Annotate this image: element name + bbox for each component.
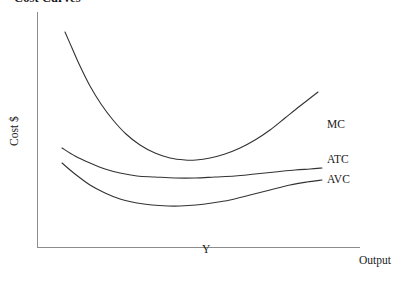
curve-avc [62,163,322,206]
curve-label-mc: MC [327,118,345,131]
x-axis-tick-label-y: Y [202,243,210,256]
y-axis-label-text: Cost $ [8,116,21,146]
cost-curves-figure: Cost Curves Cost $ Y Output MC ATC AVC [0,0,408,282]
curve-atc [62,148,322,178]
plot-area [0,0,408,282]
curve-label-atc: ATC [327,153,349,166]
curve-label-avc: AVC [327,173,350,186]
axes [37,12,360,247]
y-axis-label: Cost $ [8,88,21,118]
x-axis-label: Output [359,254,391,267]
curves [62,32,322,206]
curve-mc [65,32,318,160]
